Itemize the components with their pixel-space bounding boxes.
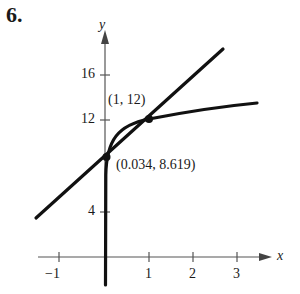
y-tick-label: 16 — [81, 66, 95, 82]
line-series — [36, 49, 223, 218]
x-axis-label: x — [277, 248, 283, 264]
x-tick-label: 3 — [233, 266, 240, 282]
y-tick-label: 4 — [88, 203, 95, 219]
curve-series — [106, 103, 258, 285]
x-axis-arrow-icon — [259, 253, 272, 261]
intersection-point-1 — [145, 115, 153, 123]
y-tick-label: 12 — [81, 111, 95, 127]
x-tick-label: −1 — [45, 266, 60, 282]
graph — [0, 0, 300, 294]
point-label-2: (0.034, 8.619) — [116, 157, 195, 173]
point-label-1: (1, 12) — [108, 92, 145, 108]
x-tick-label: 2 — [189, 266, 196, 282]
y-axis-label: y — [99, 17, 105, 33]
x-tick-label: 1 — [145, 266, 152, 282]
intersection-point-2 — [103, 153, 111, 161]
